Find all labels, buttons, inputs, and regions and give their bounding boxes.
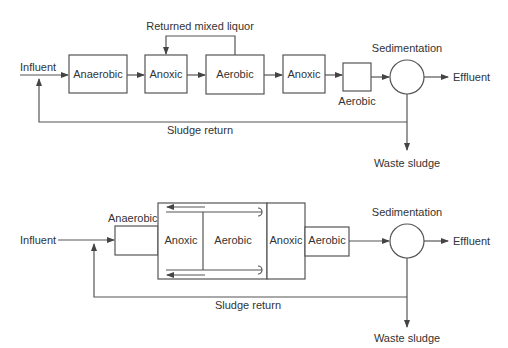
top-aerobic-label-2: Aerobic: [338, 95, 376, 107]
bottom-sludge-return-label: Sludge return: [215, 299, 281, 311]
bottom-aerobic-label-1: Aerobic: [214, 234, 252, 246]
top-anoxic-label-1: Anoxic: [149, 68, 183, 80]
top-sedimentation-label: Sedimentation: [372, 42, 442, 54]
top-aerobic-label-1: Aerobic: [216, 68, 254, 80]
process-flow-diagrams: Influent Anaerobic Anoxic Aerobic Anoxic…: [0, 0, 508, 348]
bottom-anoxic-label-2: Anoxic: [269, 234, 303, 246]
bottom-anaerobic-tank: [115, 226, 158, 255]
top-anaerobic-label: Anaerobic: [73, 68, 123, 80]
top-influent-label: Influent: [20, 61, 56, 73]
bottom-anaerobic-label: Anaerobic: [108, 212, 158, 224]
top-sedimentation-clarifier: [390, 60, 424, 94]
bottom-diagram: Influent Anaerobic Anoxic Aerobic Anoxic…: [20, 203, 490, 344]
top-anoxic-label-2: Anoxic: [287, 68, 321, 80]
top-effluent-label: Effluent: [453, 71, 490, 83]
bottom-aerobic-label-2: Aerobic: [308, 234, 346, 246]
bottom-effluent-label: Effluent: [453, 235, 490, 247]
top-returned-mixed-liquor-arrow: [166, 36, 235, 55]
bottom-waste-sludge-label: Waste sludge: [374, 332, 440, 344]
top-sludge-return-label: Sludge return: [167, 124, 233, 136]
top-returned-mixed-liquor-label: Returned mixed liquor: [146, 20, 254, 32]
bottom-sedimentation-clarifier: [390, 224, 424, 258]
bottom-sedimentation-label: Sedimentation: [372, 206, 442, 218]
top-waste-sludge-label: Waste sludge: [374, 157, 440, 169]
top-diagram: Influent Anaerobic Anoxic Aerobic Anoxic…: [20, 20, 490, 169]
bottom-anoxic-label-1: Anoxic: [164, 234, 198, 246]
bottom-influent-label: Influent: [20, 234, 56, 246]
top-aerobic-tank-2: [343, 63, 371, 91]
